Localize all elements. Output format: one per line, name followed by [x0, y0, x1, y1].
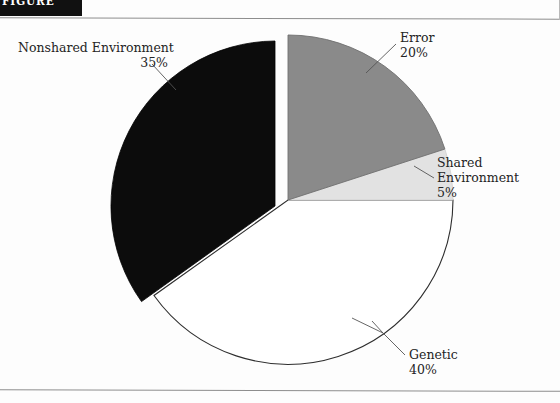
pie-label-error-name: Error — [400, 30, 435, 45]
pie-label-genetic: Genetic 40% — [409, 347, 458, 377]
pie-label-genetic-name: Genetic — [409, 347, 458, 362]
pie-label-nonshared-environment-value: 35% — [18, 55, 168, 70]
pie-label-shared-environment-name-line1: Shared — [437, 155, 482, 170]
pie-label-shared-environment-name-line2: Environment — [437, 170, 519, 185]
pie-label-genetic-value: 40% — [409, 362, 458, 377]
pie-label-nonshared-environment: Nonshared Environment 35% — [18, 40, 168, 70]
figure-number-label: FIGURE — [2, 0, 55, 7]
pie-label-shared-environment-value: 5% — [437, 185, 519, 200]
pie-label-shared-environment: Shared Environment 5% — [437, 155, 519, 200]
pie-label-error: Error 20% — [400, 30, 435, 60]
pie-chart-svg — [0, 18, 560, 390]
pie-label-error-value: 20% — [400, 45, 435, 60]
pie-label-nonshared-environment-name: Nonshared Environment — [18, 40, 174, 55]
figure-page: FIGURE Nonshared Environment 35% — [0, 0, 560, 403]
pie-chart: Nonshared Environment 35% Error 20% Shar… — [0, 18, 560, 390]
figure-number-tab: FIGURE — [0, 0, 82, 16]
